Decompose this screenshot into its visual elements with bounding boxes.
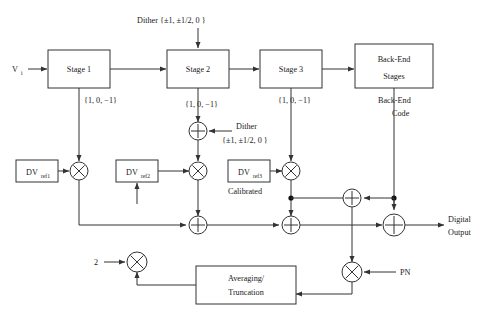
- back-end-stages-block[interactable]: [355, 44, 433, 88]
- averaging-line1: Averaging/: [228, 274, 265, 283]
- dither-mid-values: {±1, ±1/2, 0 }: [222, 136, 268, 145]
- back-end-stages-line2: Stages: [383, 72, 404, 81]
- digital-output-line1: Digital: [448, 215, 471, 224]
- stage-2-label: Stage 2: [186, 65, 210, 74]
- back-end-stages-line1: Back-End: [378, 55, 411, 64]
- wire-ref1-product-to-adder1: [79, 180, 186, 225]
- dv-ref3-label: DV: [238, 168, 250, 177]
- stage-2-code-label: {1, 0, −1}: [185, 100, 218, 109]
- dv-ref3-sub: ref3: [253, 173, 262, 179]
- stage-3-code-label: {1, 0, −1}: [278, 96, 311, 105]
- gain-two-label: 2: [94, 258, 98, 267]
- pn-label: PN: [400, 268, 411, 277]
- averaging-line2: Truncation: [228, 288, 264, 297]
- dv-ref1-label: DV: [26, 168, 38, 177]
- stage-3-label: Stage 3: [279, 65, 303, 74]
- block-diagram-canvas: Dither {±1, ±1/2, 0 } V i Stage 1 Stage …: [0, 0, 497, 310]
- stage-1-code-label: {1, 0, −1}: [84, 96, 117, 105]
- averaging-truncation-block[interactable]: [196, 266, 296, 304]
- input-label: V: [12, 65, 18, 74]
- stage-1-label: Stage 1: [67, 65, 91, 74]
- dv-ref2-label: DV: [126, 168, 138, 177]
- dither-mid-label: Dither: [236, 122, 257, 131]
- dither-top-label: Dither {±1, ±1/2, 0 }: [137, 16, 206, 25]
- digital-output-line2: Output: [448, 228, 471, 237]
- wire-pn-mult-to-averaging: [296, 282, 352, 294]
- dv-ref3-note: Calibrated: [228, 187, 262, 196]
- input-label-sub: i: [21, 70, 23, 76]
- back-end-code-line2: Code: [392, 109, 410, 118]
- wire-averaging-to-gain2: [137, 272, 196, 285]
- dv-ref1-sub: ref1: [41, 173, 50, 179]
- dv-ref2-sub: ref2: [141, 173, 150, 179]
